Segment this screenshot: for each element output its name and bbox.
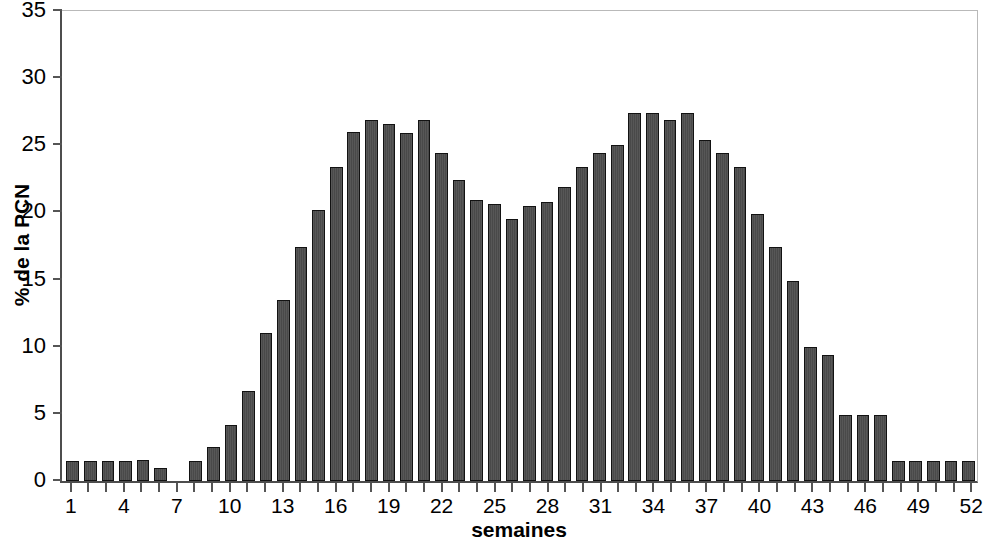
bar	[365, 120, 378, 481]
x-axis-tick	[397, 483, 415, 493]
bar	[909, 461, 922, 481]
bar-cell	[626, 11, 644, 481]
x-axis-tick-mark	[652, 483, 654, 492]
bar-cell	[802, 11, 820, 481]
bar-cell	[187, 11, 205, 481]
x-axis-tick-mark	[776, 483, 778, 492]
x-axis-tick-mark	[140, 483, 142, 492]
bar-cell	[169, 11, 187, 481]
x-axis-tick	[415, 483, 433, 493]
x-axis-tick: 43	[804, 483, 822, 493]
bar-cell	[486, 11, 504, 481]
x-axis-tick-mark	[970, 483, 972, 492]
x-axis-tick-mark	[370, 483, 372, 492]
x-axis-tick-label: 19	[377, 494, 400, 518]
bar-cell	[644, 11, 662, 481]
x-axis-tick-mark	[811, 483, 813, 492]
y-axis-tick-label: 15	[22, 266, 46, 292]
x-axis-tick-mark	[388, 483, 390, 492]
x-axis-tick-label: 49	[907, 494, 930, 518]
x-axis-tick	[309, 483, 327, 493]
y-axis-tick-label: 0	[34, 467, 46, 493]
bar	[453, 180, 466, 481]
x-axis-tick-mark	[335, 483, 337, 492]
x-axis-tick: 22	[433, 483, 451, 493]
bar	[66, 461, 79, 481]
x-axis-tick-mark	[900, 483, 902, 492]
x-axis-tick	[203, 483, 221, 493]
x-axis-tick-mark	[705, 483, 707, 492]
bar-cell	[82, 11, 100, 481]
bar-cell	[661, 11, 679, 481]
y-axis-tick: 10	[53, 345, 62, 347]
bar	[716, 153, 729, 481]
x-axis-tick-mark	[70, 483, 72, 492]
bar	[312, 210, 325, 481]
x-axis-tick	[292, 483, 310, 493]
x-axis-tick-mark	[847, 483, 849, 492]
bar	[558, 187, 571, 481]
x-axis-ticks: 147101316192225283134374043464952	[62, 483, 980, 493]
bar	[435, 153, 448, 481]
bar-cell	[573, 11, 591, 481]
x-axis-tick-mark	[352, 483, 354, 492]
bar-cell	[749, 11, 767, 481]
x-axis-tick-label: 4	[118, 494, 130, 518]
x-axis-tick-mark	[582, 483, 584, 492]
x-axis-tick	[556, 483, 574, 493]
bar-series	[64, 11, 977, 481]
bar	[857, 415, 870, 481]
bar-cell	[117, 11, 135, 481]
y-axis-tick: 0	[53, 479, 62, 481]
x-axis-tick-mark	[882, 483, 884, 492]
x-axis-tick-mark	[917, 483, 919, 492]
x-axis-tick-mark	[229, 483, 231, 492]
bar-cell	[99, 11, 117, 481]
bar-cell	[925, 11, 943, 481]
bar-cell	[415, 11, 433, 481]
x-axis-tick	[450, 483, 468, 493]
bar	[804, 347, 817, 481]
x-axis-tick-label: 40	[748, 494, 771, 518]
bar-cell	[679, 11, 697, 481]
x-axis-tick-mark	[193, 483, 195, 492]
x-axis-tick	[733, 483, 751, 493]
x-axis-tick-mark	[441, 483, 443, 492]
bar	[400, 133, 413, 481]
x-axis-tick	[574, 483, 592, 493]
x-axis-tick	[503, 483, 521, 493]
x-axis-tick-label: 1	[65, 494, 77, 518]
y-axis-tick-label: 10	[22, 333, 46, 359]
bar	[945, 461, 958, 481]
bar-cell	[240, 11, 258, 481]
x-axis-tick	[768, 483, 786, 493]
x-axis-tick: 28	[539, 483, 557, 493]
x-axis-tick	[150, 483, 168, 493]
x-axis-tick-mark	[600, 483, 602, 492]
bar-cell	[433, 11, 451, 481]
bar-cell	[538, 11, 556, 481]
x-axis-tick-mark	[405, 483, 407, 492]
x-axis-tick	[874, 483, 892, 493]
x-axis-tick: 19	[380, 483, 398, 493]
bar-cell	[591, 11, 609, 481]
bar	[646, 113, 659, 481]
bar-cell	[872, 11, 890, 481]
x-axis-tick-mark	[829, 483, 831, 492]
bar	[734, 167, 747, 481]
x-axis-tick: 31	[592, 483, 610, 493]
x-axis-tick-mark	[953, 483, 955, 492]
y-axis-tick-label: 25	[22, 131, 46, 157]
x-axis-tick-label: 13	[271, 494, 294, 518]
x-axis-tick: 1	[62, 483, 80, 493]
x-axis-tick: 16	[327, 483, 345, 493]
x-axis-tick-mark	[282, 483, 284, 492]
bar	[119, 461, 132, 481]
x-axis-tick: 13	[274, 483, 292, 493]
x-axis-tick: 46	[857, 483, 875, 493]
bar-cell	[889, 11, 907, 481]
bar	[699, 140, 712, 481]
x-axis-tick-label: 46	[854, 494, 877, 518]
x-axis-tick	[239, 483, 257, 493]
x-axis-tick: 25	[486, 483, 504, 493]
